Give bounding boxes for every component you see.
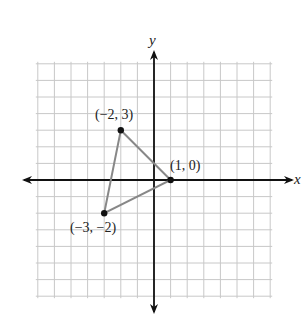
x-axis-label: x: [293, 171, 301, 187]
point-label-1: (−2, 3): [95, 107, 134, 123]
data-point: [118, 127, 124, 133]
point-label-3: (−3, −2): [70, 220, 116, 236]
y-axis-label: y: [147, 32, 156, 48]
point-label-2: (1, 0): [170, 158, 201, 174]
data-point: [101, 210, 107, 216]
data-point: [167, 177, 173, 183]
coordinate-plane: x y (−2, 3) (1, 0) (−3, −2): [0, 0, 307, 317]
